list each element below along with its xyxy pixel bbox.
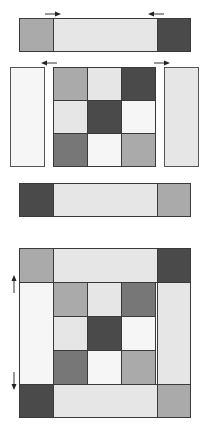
middle-grid-cell-r3c2 — [87, 133, 122, 167]
middle-right-panel — [164, 67, 199, 167]
middle-grid-cell-r2c3 — [121, 100, 156, 134]
block-bottom-left — [19, 384, 54, 418]
block-top-left — [19, 248, 54, 283]
bottom-strip-cell-1 — [19, 183, 54, 217]
top-strip-cell-2 — [53, 18, 158, 52]
assembled-block — [19, 248, 191, 418]
middle-grid-cell-r3c3 — [121, 133, 156, 167]
block-top-right — [157, 248, 191, 283]
bottom-strip-cell-2 — [53, 183, 158, 217]
top-strip-cell-3 — [157, 18, 191, 52]
arrow-right-icon — [45, 10, 61, 18]
block-inner-cell-r3c2 — [87, 350, 122, 385]
block-inner-cell-r2c3 — [121, 316, 156, 351]
bottom-strip — [19, 183, 191, 217]
middle-grid-cell-r2c1 — [53, 100, 88, 134]
block-inner-cell-r1c1 — [53, 282, 88, 317]
block-inner-cell-r1c2 — [87, 282, 122, 317]
block-bottom-middle — [53, 384, 158, 418]
arrow-right-icon — [154, 59, 170, 67]
block-inner-cell-r3c3 — [121, 350, 156, 385]
top-strip — [19, 18, 191, 52]
middle-grid — [53, 67, 158, 168]
block-inner-cell-r2c1 — [53, 316, 88, 351]
block-right-column — [157, 282, 191, 385]
block-inner-cell-r1c3 — [121, 282, 156, 317]
block-top-middle — [53, 248, 158, 283]
block-left-column — [19, 282, 54, 385]
middle-grid-cell-r2c2 — [87, 100, 122, 134]
block-bottom-right — [157, 384, 191, 418]
middle-grid-cell-r1c1 — [53, 67, 88, 101]
block-inner-cell-r3c1 — [53, 350, 88, 385]
middle-grid-cell-r1c2 — [87, 67, 122, 101]
middle-left-panel — [10, 67, 45, 167]
arrow-up-icon — [10, 275, 18, 293]
middle-grid-cell-r3c1 — [53, 133, 88, 167]
arrow-left-icon — [148, 10, 164, 18]
bottom-strip-cell-3 — [157, 183, 191, 217]
arrow-left-icon — [41, 59, 57, 67]
top-strip-cell-1 — [19, 18, 54, 52]
middle-grid-cell-r1c3 — [121, 67, 156, 101]
arrow-down-icon — [10, 372, 18, 390]
block-inner-cell-r2c2 — [87, 316, 122, 351]
